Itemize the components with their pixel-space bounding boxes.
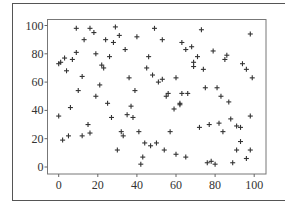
plus-marker-icon — [234, 148, 239, 153]
plus-marker-icon — [203, 85, 208, 90]
plus-marker-icon — [213, 162, 218, 167]
plus-marker-icon — [244, 67, 249, 72]
plus-marker-icon — [150, 73, 155, 78]
plus-marker-icon — [160, 77, 165, 82]
plus-marker-icon — [60, 138, 65, 143]
plus-marker-icon — [172, 106, 177, 111]
plot-area-frame — [48, 20, 267, 175]
plus-marker-icon — [134, 34, 139, 39]
plus-marker-icon — [199, 27, 204, 32]
plus-marker-icon — [248, 114, 253, 119]
plus-marker-icon — [115, 148, 120, 153]
plus-marker-icon — [195, 54, 200, 59]
plus-marker-icon — [179, 91, 184, 96]
plus-marker-icon — [123, 47, 128, 52]
plus-marker-icon — [142, 140, 147, 145]
plus-marker-icon — [174, 75, 179, 80]
plus-marker-icon — [183, 47, 188, 52]
plus-marker-icon — [138, 162, 143, 167]
plus-marker-icon — [74, 50, 79, 55]
plus-marker-icon — [144, 65, 149, 70]
plus-marker-icon — [240, 61, 245, 66]
plus-marker-icon — [70, 57, 75, 62]
plus-marker-icon — [86, 122, 91, 127]
plus-marker-icon — [93, 94, 98, 99]
x-tick-label: 80 — [209, 178, 221, 192]
plus-marker-icon — [129, 104, 134, 109]
plus-marker-icon — [87, 26, 92, 31]
x-tick-label: 40 — [131, 178, 143, 192]
plus-marker-icon — [117, 33, 122, 38]
plus-marker-icon — [211, 48, 216, 53]
plus-marker-icon — [174, 152, 179, 157]
plus-marker-icon — [238, 139, 243, 144]
plus-marker-icon — [250, 75, 255, 80]
plus-marker-icon — [80, 74, 85, 79]
plus-marker-icon — [230, 160, 235, 165]
plus-marker-icon — [105, 101, 110, 106]
x-tick-label: 60 — [170, 178, 182, 192]
plus-marker-icon — [136, 129, 141, 134]
y-tick-label: 80 — [32, 47, 44, 61]
plus-marker-icon — [228, 116, 233, 121]
plus-marker-icon — [74, 26, 79, 31]
plus-marker-icon — [160, 37, 165, 42]
plus-marker-icon — [56, 114, 61, 119]
plus-marker-icon — [113, 24, 118, 29]
scatter-figure: 020406080100 020406080100 — [0, 0, 285, 209]
scatter-plot: 020406080100 020406080100 — [0, 0, 285, 209]
plus-marker-icon — [156, 80, 161, 85]
plus-marker-icon — [62, 56, 67, 61]
plus-marker-icon — [125, 112, 130, 117]
plus-marker-icon — [91, 30, 96, 35]
plus-marker-icon — [218, 94, 223, 99]
x-tick-label: 0 — [56, 178, 62, 192]
y-axis: 020406080100 — [26, 19, 48, 175]
y-tick-label: 40 — [32, 103, 44, 117]
plus-marker-icon — [111, 40, 116, 45]
x-tick-label: 20 — [92, 178, 104, 192]
y-tick-label: 60 — [32, 75, 44, 89]
plus-marker-icon — [217, 121, 222, 126]
plus-marker-icon — [152, 26, 157, 31]
plus-marker-icon — [185, 91, 190, 96]
plus-marker-icon — [140, 155, 145, 160]
plus-marker-icon — [127, 75, 132, 80]
plus-marker-icon — [148, 143, 153, 148]
plus-marker-icon — [220, 129, 225, 134]
y-tick-label: 20 — [32, 132, 44, 146]
x-axis: 020406080100 — [56, 174, 263, 192]
plus-marker-icon — [66, 133, 71, 138]
plus-marker-icon — [103, 37, 108, 42]
plus-marker-icon — [201, 67, 206, 72]
plus-marker-icon — [109, 115, 114, 120]
plus-marker-icon — [132, 88, 137, 93]
plus-marker-icon — [189, 44, 194, 49]
plus-marker-icon — [146, 54, 151, 59]
plus-marker-icon — [154, 140, 159, 145]
plus-marker-icon — [197, 125, 202, 130]
plus-marker-icon — [244, 156, 249, 161]
plus-marker-icon — [162, 148, 167, 153]
plus-marker-icon — [191, 64, 196, 69]
plus-marker-icon — [93, 51, 98, 56]
plus-marker-icon — [82, 37, 87, 42]
y-tick-label: 0 — [38, 160, 44, 174]
plus-marker-icon — [248, 148, 253, 153]
plus-marker-icon — [179, 40, 184, 45]
plus-marker-icon — [248, 31, 253, 36]
plus-marker-icon — [107, 54, 112, 59]
plus-marker-icon — [168, 129, 173, 134]
plus-marker-icon — [80, 133, 85, 138]
plus-marker-icon — [215, 85, 220, 90]
plus-marker-icon — [68, 105, 73, 110]
plus-marker-icon — [183, 155, 188, 160]
data-points — [56, 24, 255, 166]
plus-marker-icon — [207, 122, 212, 127]
plus-marker-icon — [76, 88, 81, 93]
plus-marker-icon — [64, 68, 69, 73]
plus-marker-icon — [87, 131, 92, 136]
outer-frame — [12, 3, 285, 201]
y-tick-label: 100 — [26, 19, 44, 33]
x-tick-label: 100 — [245, 178, 263, 192]
